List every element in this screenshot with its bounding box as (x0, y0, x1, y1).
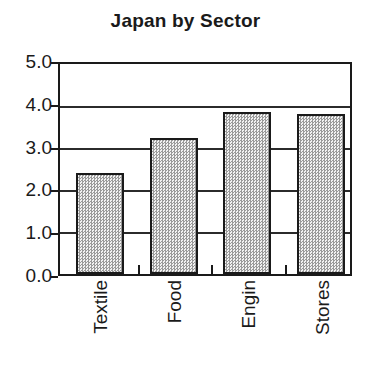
x-tick-mark (285, 265, 287, 274)
bar-food (150, 138, 198, 275)
x-tick-label-food: Food (164, 280, 186, 323)
y-tick-label: 1.0 (4, 222, 52, 244)
y-tick-label: 0.0 (4, 265, 52, 287)
y-tick-mark (51, 62, 58, 64)
y-tick-label: 2.0 (4, 179, 52, 201)
chart-title: Japan by Sector (0, 10, 371, 32)
y-tick-label: 5.0 (4, 51, 52, 73)
x-tick-label-engin: Engin (238, 280, 260, 329)
x-tick-mark (138, 265, 140, 274)
x-tick-label-textile: Textile (90, 280, 112, 334)
y-tick-label: 4.0 (4, 94, 52, 116)
bar-stores (297, 114, 345, 274)
y-tick-mark (51, 148, 58, 150)
bar-engin (223, 112, 271, 274)
gridline-4 (60, 106, 350, 108)
x-tick-label-stores: Stores (312, 280, 334, 335)
bar-textile (76, 173, 124, 274)
bar-chart: Japan by Sector 5.0 4.0 3.0 2.0 1.0 0.0 … (0, 0, 371, 376)
y-tick-mark (51, 105, 58, 107)
y-tick-label: 3.0 (4, 137, 52, 159)
y-tick-mark (51, 233, 58, 235)
y-tick-mark (51, 276, 58, 278)
x-tick-mark (211, 265, 213, 274)
plot-area (58, 62, 352, 276)
y-tick-mark (51, 190, 58, 192)
x-axis: Textile Food Engin Stores (58, 280, 352, 376)
y-axis: 5.0 4.0 3.0 2.0 1.0 0.0 (0, 62, 52, 276)
